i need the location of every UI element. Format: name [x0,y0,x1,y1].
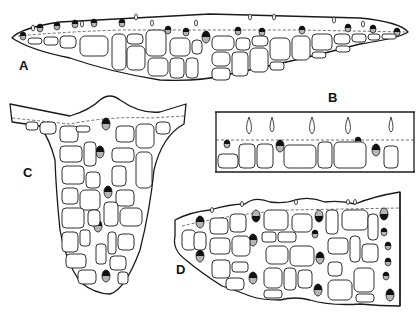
figure-canvas [0,0,418,315]
panel-b [215,112,415,172]
panel-label-b: B [328,90,337,105]
panel-a [12,14,408,80]
panel-c [10,96,186,294]
panel-label-c: C [23,165,32,180]
panel-d [174,192,400,306]
panel-label-d: D [176,262,185,277]
panel-label-a: A [19,58,28,73]
